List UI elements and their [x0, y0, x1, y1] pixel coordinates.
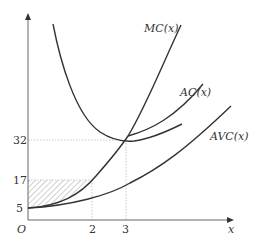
cost-curves-chart: MC(x) AC(x) AVC(x) 32 17 5 O 2 3 x: [0, 0, 256, 244]
y-tick-32: 32: [13, 134, 27, 147]
mc-label: MC(x): [143, 22, 178, 35]
caption-strip: [0, 236, 256, 244]
mc-curve: [53, 24, 182, 141]
origin-label: O: [17, 223, 26, 236]
x-tick-3: 3: [122, 223, 129, 236]
x-tick-2: 2: [89, 223, 96, 236]
ac-label: AC(x): [179, 86, 211, 99]
y-axis-arrow-icon: [25, 13, 31, 20]
shaded-region: [28, 180, 92, 208]
avc-label: AVC(x): [209, 130, 249, 143]
y-tick-5: 5: [16, 202, 23, 215]
x-axis-label: x: [228, 223, 235, 236]
y-tick-17: 17: [13, 174, 27, 187]
